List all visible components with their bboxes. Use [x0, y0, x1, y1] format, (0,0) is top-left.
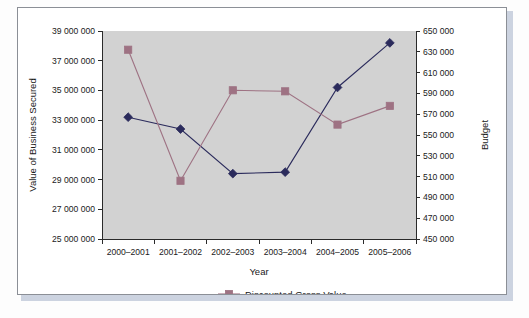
series-marker-2 — [229, 87, 236, 94]
x-axis-category-label: 2004–2005 — [316, 247, 359, 257]
legend-marker-sample — [225, 290, 232, 294]
series-marker-2 — [386, 102, 393, 109]
right-axis-tick-label: 590 000 — [423, 88, 454, 98]
y-axis-title: Value of Business Secured — [27, 78, 38, 191]
dual-axis-line-chart: 25 000 00027 000 00029 000 00031 000 000… — [18, 8, 506, 294]
left-axis-tick-label: 37 000 000 — [52, 56, 95, 66]
right-axis-tick-label: 610 000 — [423, 68, 454, 78]
series-marker-2 — [125, 46, 132, 53]
legend-label: Discounted Gross Value — [245, 289, 347, 295]
left-axis-tick-label: 31 000 000 — [52, 145, 95, 155]
plot-background — [102, 31, 416, 239]
right-axis-tick-label: 490 000 — [423, 192, 454, 202]
left-axis-tick-label: 29 000 000 — [52, 175, 95, 185]
chart-figure: 25 000 00027 000 00029 000 00031 000 000… — [0, 0, 529, 318]
left-axis-tick-label: 33 000 000 — [52, 115, 95, 125]
left-axis-tick-label: 27 000 000 — [52, 204, 95, 214]
series-marker-2 — [282, 88, 289, 95]
right-axis-tick-label: 550 000 — [423, 130, 454, 140]
x-axis-category-label: 2002–2003 — [211, 247, 254, 257]
right-axis-tick-label: 650 000 — [423, 26, 454, 36]
right-axis-tick-label: 530 000 — [423, 151, 454, 161]
x-axis-title: Year — [249, 266, 268, 277]
series-marker-2 — [177, 177, 184, 184]
right-axis-tick-label: 570 000 — [423, 109, 454, 119]
right-axis-tick-label: 470 000 — [423, 213, 454, 223]
right-axis-tick-label: 630 000 — [423, 47, 454, 57]
y2-axis-title: Budget — [479, 120, 490, 150]
x-axis-category-label: 2005–2006 — [368, 247, 411, 257]
x-axis-category-label: 2001–2002 — [159, 247, 202, 257]
figure-frame: 25 000 00027 000 00029 000 00031 000 000… — [17, 7, 507, 295]
series-marker-2 — [334, 121, 341, 128]
x-axis-category-label: 2003–2004 — [264, 247, 307, 257]
x-axis-category-label: 2000–2001 — [107, 247, 150, 257]
right-axis-tick-label: 510 000 — [423, 172, 454, 182]
left-axis-tick-label: 39 000 000 — [52, 26, 95, 36]
left-axis-tick-label: 35 000 000 — [52, 85, 95, 95]
left-axis-tick-label: 25 000 000 — [52, 234, 95, 244]
right-axis-tick-label: 450 000 — [423, 234, 454, 244]
